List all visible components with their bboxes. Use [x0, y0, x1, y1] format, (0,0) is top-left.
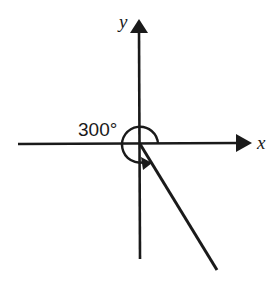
x-axis	[18, 134, 252, 152]
y-axis-label: y	[117, 11, 128, 32]
y-axis	[130, 19, 148, 259]
angle-label: 300°	[78, 119, 117, 140]
y-axis-arrowhead-icon	[130, 19, 148, 33]
x-axis-arrowhead-icon	[236, 134, 252, 152]
angle-diagram: x y 300°	[0, 0, 268, 285]
x-axis-label: x	[256, 132, 266, 153]
